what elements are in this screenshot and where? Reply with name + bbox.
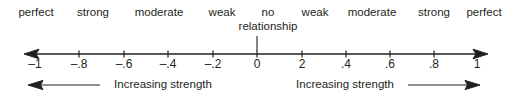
tick-label-pos-0-6: .6 [385,57,395,71]
axis-graphics [0,0,506,101]
tick-label-pos-0-4: .4 [341,57,351,71]
increasing-strength-left-arrow [28,80,100,89]
correlation-strength-number-line: perfect strong moderate weak no relation… [0,0,506,101]
tick-label-neg-0-6: –.6 [116,57,133,71]
tick-label-zero: 0 [254,57,261,71]
tick-label-pos-0-8: .8 [429,57,439,71]
tick-label-neg-0-8: –.8 [71,57,88,71]
tick-label-neg-1: –1 [28,57,41,71]
tick-label-pos-1: 1 [474,57,481,71]
tick-label-neg-0-2: –.2 [205,57,222,71]
increasing-strength-label-right: Increasing strength [296,78,394,91]
tick-label-pos-0-2: 2 [299,57,306,71]
tick-label-neg-0-4: –.4 [160,57,177,71]
increasing-strength-label-left: Increasing strength [114,78,212,91]
increasing-strength-right-arrow [408,80,480,89]
